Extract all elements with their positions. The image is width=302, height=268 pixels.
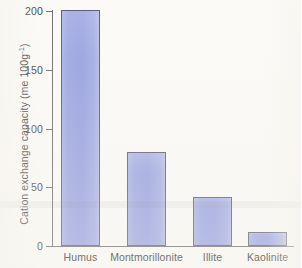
bar-highlight <box>194 198 231 245</box>
bar-humus <box>61 10 100 246</box>
y-axis-tick-label: 200 <box>0 6 43 17</box>
y-axis-tick-mark <box>46 246 52 247</box>
x-axis-line <box>52 246 294 247</box>
bar-illite <box>193 197 232 246</box>
x-axis-labels: HumusMontmorilloniteIlliteKaolinite <box>0 250 301 268</box>
y-axis-title-text: Cation exchange capacity (me 100g <box>18 54 30 225</box>
bar-chart-figure: Cation exchange capacity (me 100g-1) 050… <box>0 0 301 268</box>
plot-area <box>52 10 294 246</box>
y-axis-title-tail: ) <box>18 43 30 47</box>
bar-highlight <box>62 11 99 245</box>
bar-montmorillonite <box>127 152 166 246</box>
bar-highlight <box>249 233 286 245</box>
x-axis-label-kaolinite: Kaolinite <box>208 250 302 264</box>
bar-highlight <box>128 153 165 245</box>
y-axis-tick-label: 100 <box>0 124 43 135</box>
y-axis-tick-label: 50 <box>0 182 43 193</box>
y-axis-tick-label: 150 <box>0 65 43 76</box>
bar-kaolinite <box>248 232 287 246</box>
y-axis-title-exponent: -1 <box>17 47 26 54</box>
